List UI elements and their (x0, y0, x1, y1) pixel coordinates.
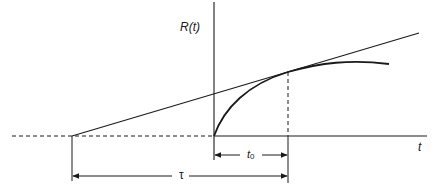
x-axis-label: t (418, 141, 421, 153)
tau-label: τ (175, 169, 188, 181)
response-diagram (0, 0, 437, 193)
t0-label: t0 (244, 149, 258, 161)
response-curve (214, 62, 389, 136)
tangent-line (72, 33, 419, 136)
t0-label-sub: 0 (250, 152, 254, 161)
y-axis-label: R(t) (180, 21, 200, 33)
